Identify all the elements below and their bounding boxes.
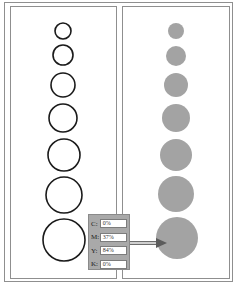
cmyk-color-panel: C: 0% M: 37% Y: 84% K: 0% (88, 214, 130, 270)
cmyk-row-yellow: Y: 84% (90, 244, 127, 257)
cmyk-row-magenta: M: 37% (90, 231, 127, 244)
yellow-input[interactable]: 84% (100, 246, 127, 255)
magenta-input[interactable]: 37% (100, 233, 127, 242)
outlined-circle-1 (55, 23, 71, 39)
black-input[interactable]: 0% (100, 260, 127, 269)
yellow-label: Y: (90, 246, 100, 256)
filled-circle-5 (160, 139, 192, 171)
cyan-label: C: (90, 219, 100, 229)
outlined-circle-3 (51, 73, 75, 97)
magenta-label: M: (90, 232, 100, 242)
filled-circle-6 (158, 176, 194, 212)
filled-circle-1 (168, 23, 184, 39)
outlined-circle-2 (53, 45, 73, 65)
filled-circles-group (156, 23, 198, 259)
outlined-circle-6 (46, 177, 82, 213)
black-label: K: (90, 259, 100, 269)
outlined-circle-4 (49, 104, 77, 132)
filled-circle-4 (162, 104, 190, 132)
filled-circle-7 (156, 217, 198, 259)
cyan-input[interactable]: 0% (100, 219, 127, 228)
outlined-circles-group (43, 23, 85, 261)
filled-circle-3 (164, 73, 188, 97)
cmyk-row-cyan: C: 0% (90, 217, 127, 230)
outlined-circle-7 (43, 219, 85, 261)
outlined-circle-5 (48, 139, 80, 171)
cmyk-row-black: K: 0% (90, 258, 127, 271)
filled-circle-2 (166, 46, 186, 66)
